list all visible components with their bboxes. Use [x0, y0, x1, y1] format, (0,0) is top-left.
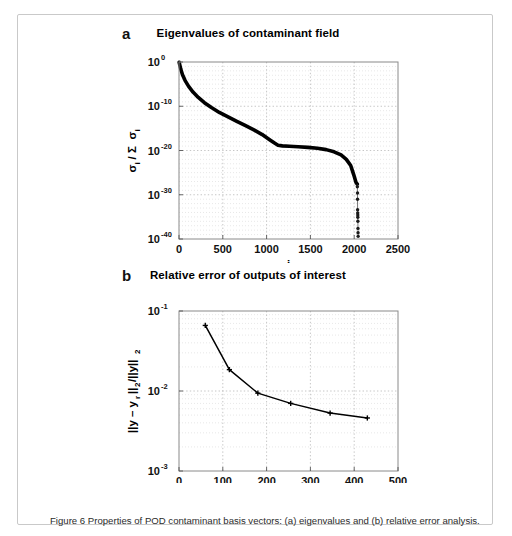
y-tick-exponent-b: -2 [161, 382, 168, 391]
y-tick-label-a: 10-10 [148, 97, 172, 112]
noise-eigenvalue-point [356, 216, 359, 219]
noise-eigenvalue-point [356, 227, 359, 230]
y-tick-base-a: 10 [148, 189, 160, 201]
y-tick-label-b: 10-2 [148, 382, 168, 397]
y-tick-label-b: 10-3 [148, 462, 168, 477]
y-tick-base-a: 10 [148, 233, 160, 245]
y-tick-label-a: 10-40 [148, 230, 172, 245]
y-axis-part-1: r [133, 396, 142, 399]
y-tick-base-a: 10 [148, 56, 160, 68]
y-tick-exponent-b: -1 [161, 302, 168, 311]
x-tick-label-b: 400 [345, 475, 363, 483]
noise-eigenvalue-point [356, 231, 359, 234]
figure-frame: a Eigenvalues of contaminant field 05001… [17, 14, 493, 525]
noise-eigenvalue-point [356, 191, 359, 194]
noise-eigenvalue-point [356, 208, 359, 211]
y-tick-exponent-a: -40 [161, 230, 172, 239]
x-tick-label-b: 100 [214, 475, 232, 483]
x-tick-label-a: 2500 [386, 243, 410, 255]
y-axis-part-0: ||y – y [126, 400, 138, 433]
y-axis-sigma2: σ [126, 132, 138, 140]
y-axis-part-2: || [126, 388, 138, 394]
y-axis-part-4: /||y|| [126, 360, 138, 382]
y-tick-exponent-a: -10 [161, 97, 172, 106]
noise-eigenvalue-point [356, 197, 359, 200]
y-axis-sum: / Σ [126, 146, 138, 159]
panel-b-relative-error: b Relative error of outputs of interest … [18, 255, 494, 483]
y-tick-exponent-a: -30 [161, 186, 172, 195]
y-tick-base-a: 10 [148, 100, 160, 112]
x-tick-label-a: 1500 [298, 243, 322, 255]
y-axis-sigma-sub: i [133, 162, 142, 164]
y-tick-label-a: 10-30 [148, 186, 172, 201]
noise-eigenvalue-point [356, 235, 359, 238]
y-tick-exponent-b: -3 [161, 462, 168, 471]
y-axis-sigma: σ [126, 165, 138, 173]
x-tick-label-b: 500 [389, 475, 407, 483]
y-tick-label-a: 10-20 [148, 142, 172, 157]
x-tick-label-b: 0 [176, 475, 182, 483]
panel-a-plot: 0500100015002000250010010-1010-2010-3010… [18, 15, 494, 263]
y-tick-exponent-a: 0 [161, 53, 165, 62]
x-tick-label-a: 500 [214, 243, 232, 255]
panel-b-plot: 010020030040050010-110-210-3Number of sa… [18, 255, 494, 483]
y-tick-label-a: 100 [148, 53, 165, 68]
figure-caption: Figure 6 Properties of POD contaminant b… [50, 515, 492, 527]
x-tick-label-a: 0 [176, 243, 182, 255]
noise-eigenvalue-point [356, 185, 359, 188]
noise-eigenvalue-point [356, 220, 359, 223]
x-tick-label-a: 2000 [342, 243, 366, 255]
x-tick-label-b: 300 [301, 475, 319, 483]
panel-a-eigenvalues: a Eigenvalues of contaminant field 05001… [18, 15, 494, 263]
y-tick-base-a: 10 [148, 145, 160, 157]
y-tick-base-b: 10 [148, 385, 160, 397]
y-axis-part-5: 2 [133, 349, 142, 354]
y-tick-base-b: 10 [148, 305, 160, 317]
y-axis-sigma2-sub: i [133, 129, 142, 131]
y-tick-exponent-a: -20 [161, 142, 172, 151]
y-axis-title-b: ||y – yr||2/||y||2 [126, 349, 142, 433]
x-tick-label-b: 200 [257, 475, 275, 483]
y-tick-label-b: 10-1 [148, 302, 168, 317]
y-axis-title-a: σi / Σ σi [126, 129, 142, 172]
y-tick-base-b: 10 [148, 465, 160, 477]
x-tick-label-a: 1000 [254, 243, 278, 255]
